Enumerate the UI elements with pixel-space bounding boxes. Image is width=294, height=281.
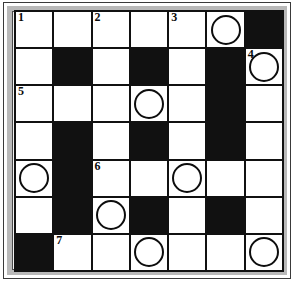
grid-cell[interactable] (169, 49, 205, 84)
grid-cell[interactable]: 1 (16, 12, 52, 47)
clue-number: 1 (18, 11, 24, 24)
block-cell (207, 86, 243, 121)
grid-cell[interactable] (169, 235, 205, 270)
grid-cell[interactable] (93, 123, 129, 158)
grid-cell[interactable] (93, 49, 129, 84)
grid-cell[interactable] (131, 161, 167, 196)
grid-cell[interactable] (207, 12, 243, 47)
grid-cell[interactable] (246, 161, 282, 196)
grid-cell[interactable] (169, 123, 205, 158)
circled-cell-marker (211, 15, 241, 45)
grid-cell[interactable] (16, 123, 52, 158)
block-cell (131, 49, 167, 84)
clue-number: 4 (248, 48, 254, 61)
block-cell (16, 235, 52, 270)
grid-cell[interactable]: 6 (93, 161, 129, 196)
grid-cell[interactable] (93, 235, 129, 270)
block-cell (131, 198, 167, 233)
block-cell (207, 198, 243, 233)
grid-cell[interactable] (169, 161, 205, 196)
grid-cell[interactable]: 3 (169, 12, 205, 47)
block-cell (54, 123, 90, 158)
grid-cell[interactable] (16, 49, 52, 84)
grid-cell[interactable] (246, 198, 282, 233)
grid-cell[interactable] (131, 86, 167, 121)
crossword-grid[interactable]: 1234567 (14, 10, 284, 272)
grid-cell[interactable]: 4 (246, 49, 282, 84)
block-cell (131, 123, 167, 158)
clue-number: 3 (171, 11, 177, 24)
grid-cell[interactable] (93, 198, 129, 233)
clue-number: 6 (95, 160, 101, 173)
circled-cell-marker (96, 200, 126, 230)
grid-cell[interactable] (246, 235, 282, 270)
grid-cell[interactable] (131, 235, 167, 270)
clue-number: 7 (56, 234, 62, 247)
grid-cell[interactable] (169, 86, 205, 121)
grid-cell[interactable] (207, 235, 243, 270)
block-cell (54, 49, 90, 84)
grid-cell[interactable]: 7 (54, 235, 90, 270)
clue-number: 5 (18, 85, 24, 98)
crossword-frame: 1234567 (3, 2, 291, 279)
circled-cell-marker (19, 163, 49, 193)
circled-cell-marker (249, 237, 279, 267)
grid-cell[interactable] (131, 12, 167, 47)
block-cell (54, 161, 90, 196)
circled-cell-marker (134, 237, 164, 267)
block-cell (207, 123, 243, 158)
circled-cell-marker (172, 163, 202, 193)
grid-cell[interactable] (246, 86, 282, 121)
grid-cell[interactable] (169, 198, 205, 233)
circled-cell-marker (134, 89, 164, 119)
block-cell (54, 198, 90, 233)
block-cell (246, 12, 282, 47)
grid-cell[interactable]: 2 (93, 12, 129, 47)
grid-cell[interactable] (16, 198, 52, 233)
grid-cell[interactable] (16, 161, 52, 196)
grid-cell[interactable] (246, 123, 282, 158)
grid-cell[interactable] (207, 161, 243, 196)
grid-cell[interactable] (54, 12, 90, 47)
block-cell (207, 49, 243, 84)
grid-cell[interactable]: 5 (16, 86, 52, 121)
grid-cell[interactable] (93, 86, 129, 121)
grid-cell[interactable] (54, 86, 90, 121)
clue-number: 2 (95, 11, 101, 24)
